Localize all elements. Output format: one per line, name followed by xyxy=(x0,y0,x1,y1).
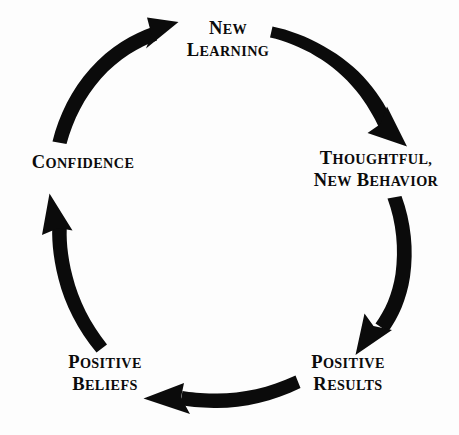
node-label-line: NEW BEHAVIOR xyxy=(300,170,452,192)
node-label-line: NEW xyxy=(158,18,298,40)
node-label-new-learning: NEW LEARNING xyxy=(158,18,298,62)
arrow-beliefs-to-confidence xyxy=(42,194,107,353)
node-label-line: BELIEFS xyxy=(42,374,168,396)
node-label-line: CONFIDENCE xyxy=(18,152,148,174)
arc-stroke xyxy=(376,196,412,332)
node-label-line: LEARNING xyxy=(158,40,298,62)
node-label-positive-results: POSITIVE RESULTS xyxy=(288,352,408,396)
arc-stroke xyxy=(180,376,301,409)
node-label-positive-beliefs: POSITIVE BELIEFS xyxy=(42,352,168,396)
node-label-line: POSITIVE xyxy=(288,352,408,374)
node-label-line: POSITIVE xyxy=(42,352,168,374)
arc-stroke xyxy=(53,27,158,144)
cycle-diagram: NEW LEARNING THOUGHTFUL, NEW BEHAVIOR PO… xyxy=(0,0,459,435)
arc-stroke xyxy=(52,223,107,353)
node-label-line: THOUGHTFUL, xyxy=(300,148,452,170)
node-label-thoughtful-new-behavior: THOUGHTFUL, NEW BEHAVIOR xyxy=(300,148,452,192)
node-label-line: RESULTS xyxy=(288,374,408,396)
arrow-behavior-to-results xyxy=(356,196,412,355)
node-label-confidence: CONFIDENCE xyxy=(18,152,148,174)
